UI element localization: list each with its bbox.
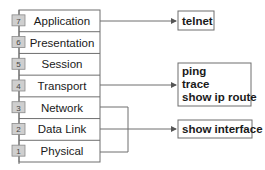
layer-row-transport: 4Transport <box>12 75 100 92</box>
layer-name: Data Link <box>38 123 87 135</box>
layer-name: Application <box>34 15 90 27</box>
layer-name: Physical <box>41 145 84 157</box>
layer-number: 2 <box>16 125 21 134</box>
layer-name: Transport <box>38 80 88 92</box>
layer-number: 1 <box>16 147 21 156</box>
layer-number: 4 <box>16 82 21 91</box>
command-text: trace <box>182 78 210 90</box>
layer-number: 3 <box>16 104 21 113</box>
command-text: show interface <box>182 123 263 135</box>
layer-row-network: 3Network <box>12 97 100 114</box>
layer-row-session: 5Session <box>12 53 100 70</box>
osi-layers: 7Application6Presentation5Session4Transp… <box>12 15 100 157</box>
layer-name: Session <box>42 58 83 70</box>
command-box-show-interface: show interface <box>178 120 263 138</box>
layer-number: 7 <box>16 17 21 26</box>
layer-name: Presentation <box>30 37 95 49</box>
layer-row-application: 7Application <box>12 15 90 27</box>
layer-number: 6 <box>16 38 21 47</box>
layer-row-presentation: 6Presentation <box>12 32 100 49</box>
command-box-telnet: telnet <box>178 11 214 30</box>
command-text: ping <box>182 65 206 77</box>
layer-number: 5 <box>16 60 21 69</box>
command-text: show ip route <box>182 91 257 103</box>
layer-row-physical: 1Physical <box>12 140 100 157</box>
command-text: telnet <box>182 15 213 27</box>
layer-row-data-link: 2Data Link <box>12 119 100 136</box>
layer-name: Network <box>41 102 83 114</box>
osi-troubleshooting-diagram: 7Application6Presentation5Session4Transp… <box>0 0 265 170</box>
command-box-transport: ping trace show ip route <box>178 63 257 106</box>
